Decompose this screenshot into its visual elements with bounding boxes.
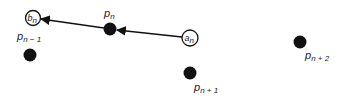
node-b-n-sub: n (33, 16, 38, 25)
node-p-n-plus-2: pn + 2 (294, 36, 330, 64)
node-p-n-minus-1-sub: n − 1 (23, 35, 41, 44)
node-a-n-sub: n (190, 36, 195, 45)
svg-text:pn − 1: pn − 1 (16, 30, 41, 44)
node-p-n-plus-2-sub: n + 2 (311, 54, 330, 63)
node-p-n-plus-1: pn + 1 (184, 67, 219, 96)
edge-p-n-to-b-n (41, 19, 104, 28)
node-a-n: an (182, 30, 198, 46)
node-p-n-base: p (103, 7, 110, 19)
node-p-n-plus-1-sub: n + 1 (200, 86, 218, 95)
node-p-n-minus-1: pn − 1 (16, 30, 41, 62)
node-p-n: pn (103, 7, 117, 36)
node-p-n-plus-2-base: p (304, 49, 311, 61)
diagram-canvas: bn an pn pn − 1 pn + 1 pn + 2 (0, 0, 343, 101)
svg-text:pn + 1: pn + 1 (193, 81, 218, 95)
svg-text:pn + 2: pn + 2 (304, 49, 330, 63)
edge-a-n-to-p-n (117, 30, 182, 37)
node-b-n: bn (26, 11, 41, 26)
node-p-n-sub: n (110, 12, 115, 21)
node-p-n-minus-1-base: p (16, 30, 23, 42)
node-p-n-plus-1-base: p (193, 81, 200, 93)
svg-text:pn: pn (103, 7, 115, 21)
